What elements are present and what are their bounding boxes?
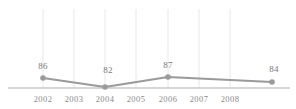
chart-plot-area: [0, 0, 296, 109]
data-point-2004[interactable]: [102, 84, 108, 90]
line-chart: 86 82 87 84 2002 2003 2004 2005 2006 200…: [0, 0, 296, 109]
data-point-2009[interactable]: [269, 79, 275, 85]
data-line-series-value: [43, 77, 272, 87]
data-point-2002[interactable]: [40, 75, 46, 81]
gridlines: [43, 9, 230, 88]
data-point-2006[interactable]: [165, 74, 171, 80]
